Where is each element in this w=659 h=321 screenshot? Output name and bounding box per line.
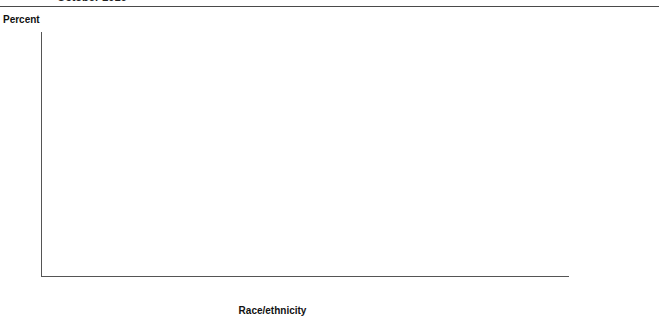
chart-root: October 2016 Percent Race/ethnicity bbox=[0, 0, 659, 321]
y-axis-ticks bbox=[0, 32, 37, 276]
title-divider bbox=[0, 6, 659, 7]
plot-area bbox=[41, 32, 568, 276]
x-axis-title: Race/ethnicity bbox=[0, 305, 659, 316]
x-axis-title-text: Race/ethnicity bbox=[239, 305, 307, 316]
x-axis-line bbox=[41, 276, 569, 277]
chart-title: October 2016 bbox=[57, 0, 127, 3]
y-axis-label: Percent bbox=[3, 14, 40, 25]
